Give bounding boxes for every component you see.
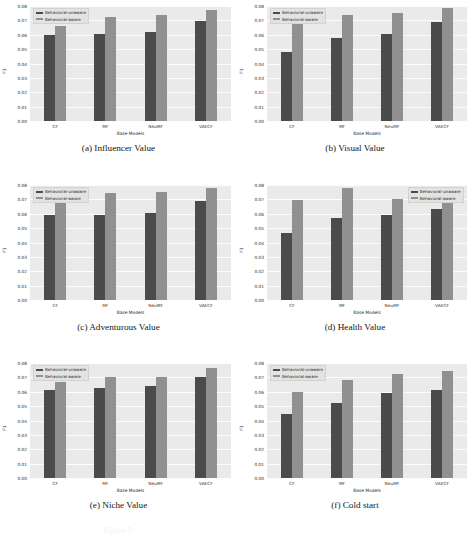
y-tick-label: 0.04 — [254, 418, 264, 423]
y-axis-label: F1 — [2, 68, 7, 74]
y-tick-label: 0.01 — [254, 104, 264, 109]
x-tick-label: MF — [317, 303, 367, 308]
bar-aware — [55, 382, 66, 478]
plot-area-wrapper: F10.000.010.020.030.040.050.060.070.08Be… — [237, 4, 473, 137]
bar-unaware — [331, 38, 342, 121]
chart-a: F10.000.010.020.030.040.050.060.070.08Be… — [0, 0, 237, 179]
x-tick-label: CF — [30, 124, 80, 129]
y-tick-label: 0.07 — [17, 18, 27, 23]
chart-f: F10.000.010.020.030.040.050.060.070.08Be… — [237, 357, 473, 537]
y-tick-label: 0.08 — [254, 4, 264, 9]
y-tick-label: 0.00 — [17, 119, 27, 124]
y-tick-label: 0.02 — [17, 90, 27, 95]
legend-label: Behavioral-unaware — [282, 10, 323, 15]
y-tick-label: 0.08 — [17, 183, 27, 188]
bar-group — [181, 363, 231, 478]
legend-item: Behavioral-unaware — [36, 367, 86, 372]
bar-aware — [156, 192, 167, 300]
bar-group — [131, 185, 181, 300]
y-tick-label: 0.06 — [254, 389, 264, 394]
legend: Behavioral-unawareBehavioral-aware — [270, 8, 326, 24]
x-tick-label: VAECF — [417, 124, 467, 129]
legend-item: Behavioral-aware — [36, 196, 86, 201]
bar-unaware — [195, 201, 206, 300]
y-tick-label: 0.03 — [254, 75, 264, 80]
y-tick-label: 0.08 — [17, 4, 27, 9]
x-tick-label: VAECF — [181, 303, 231, 308]
y-tick-label: 0.05 — [254, 404, 264, 409]
x-axis-ticks: CFMFNeuMFVAECF — [267, 481, 467, 486]
x-axis-label: Base Models — [267, 488, 467, 493]
y-tick-label: 0.02 — [254, 447, 264, 452]
x-tick-label: NeuMF — [367, 124, 417, 129]
legend-swatch-icon — [411, 191, 418, 194]
chart-e: F10.000.010.020.030.040.050.060.070.08Be… — [0, 357, 237, 537]
bar-unaware — [431, 209, 442, 300]
y-tick-label: 0.01 — [17, 104, 27, 109]
bar-unaware — [195, 21, 206, 121]
y-tick-label: 0.05 — [17, 404, 27, 409]
x-axis-label: Base Models — [30, 310, 231, 315]
legend-swatch-icon — [36, 197, 43, 200]
bar-unaware — [431, 390, 442, 478]
gridline — [30, 300, 231, 301]
y-tick-label: 0.04 — [17, 61, 27, 66]
x-tick-label: VAECF — [417, 303, 467, 308]
legend-swatch-icon — [36, 18, 43, 21]
x-axis-label: Base Models — [30, 131, 231, 136]
y-tick-label: 0.04 — [254, 61, 264, 66]
legend-label: Behavioral-unaware — [45, 189, 86, 194]
y-tick-label: 0.00 — [17, 476, 27, 481]
legend-item: Behavioral-unaware — [36, 189, 86, 194]
bar-unaware — [381, 215, 392, 300]
bar-group — [317, 185, 367, 300]
legend-item: Behavioral-unaware — [411, 189, 461, 194]
panel-caption: (c) Adventurous Value — [0, 322, 237, 332]
y-tick-label: 0.01 — [254, 461, 264, 466]
bar-group — [367, 363, 417, 478]
bar-unaware — [145, 32, 156, 121]
x-tick-label: CF — [267, 481, 317, 486]
x-tick-label: MF — [317, 124, 367, 129]
y-tick-label: 0.02 — [254, 269, 264, 274]
y-tick-label: 0.02 — [254, 90, 264, 95]
legend-swatch-icon — [36, 375, 43, 378]
panel-caption: (a) Influencer Value — [0, 143, 237, 153]
x-tick-label: NeuMF — [367, 303, 417, 308]
panel-b: F10.000.010.020.030.040.050.060.070.08Be… — [237, 0, 473, 179]
bar-aware — [105, 377, 116, 478]
legend-swatch-icon — [273, 18, 280, 21]
chart-d: F10.000.010.020.030.040.050.060.070.08Be… — [237, 179, 473, 357]
y-tick-label: 0.07 — [254, 18, 264, 23]
bar-aware — [342, 15, 353, 121]
y-tick-label: 0.00 — [254, 298, 264, 303]
y-axis-ticks: 0.000.010.020.030.040.050.060.070.08 — [245, 361, 265, 494]
y-axis-label: F1 — [2, 425, 7, 431]
y-tick-label: 0.03 — [17, 432, 27, 437]
panel-caption: (f) Cold start — [237, 500, 473, 510]
plot-area-wrapper: F10.000.010.020.030.040.050.060.070.08Be… — [237, 183, 473, 316]
x-tick-label: NeuMF — [131, 303, 181, 308]
y-tick-label: 0.05 — [17, 226, 27, 231]
bar-aware — [442, 8, 453, 121]
chart-b: F10.000.010.020.030.040.050.060.070.08Be… — [237, 0, 473, 179]
bar-group — [181, 185, 231, 300]
y-tick-label: 0.00 — [254, 119, 264, 124]
x-tick-label: VAECF — [181, 124, 231, 129]
y-tick-label: 0.01 — [17, 461, 27, 466]
x-axis-ticks: CFMFNeuMFVAECF — [267, 303, 467, 308]
y-tick-label: 0.06 — [17, 32, 27, 37]
plot-area-wrapper: F10.000.010.020.030.040.050.060.070.08Be… — [0, 4, 237, 137]
plot-area-wrapper: F10.000.010.020.030.040.050.060.070.08Be… — [0, 361, 237, 494]
gridline — [267, 478, 467, 479]
legend-label: Behavioral-aware — [420, 196, 456, 201]
bar-aware — [105, 17, 116, 122]
bar-unaware — [431, 22, 442, 121]
gridline — [267, 121, 467, 122]
gridline — [267, 300, 467, 301]
legend: Behavioral-unawareBehavioral-aware — [33, 187, 89, 203]
legend-label: Behavioral-unaware — [420, 189, 461, 194]
legend-item: Behavioral-aware — [273, 17, 323, 22]
bar-aware — [55, 202, 66, 300]
bar-aware — [342, 188, 353, 300]
